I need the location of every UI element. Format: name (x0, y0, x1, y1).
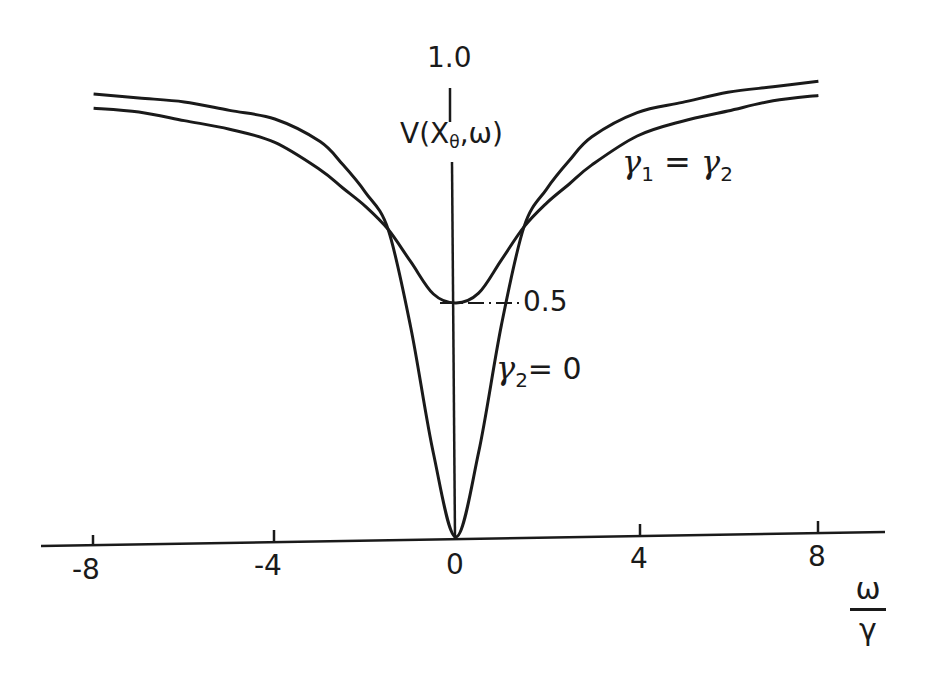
y-axis-arg-sub: θ (449, 132, 459, 152)
x-tick-label-8: 8 (808, 543, 826, 571)
x-label-omega: ω (850, 574, 886, 604)
sub-2: 2 (720, 162, 733, 186)
annotation-gamma2-zero: γ2= 0 (496, 352, 582, 390)
gamma-symbol: γ (701, 143, 720, 181)
y-axis (452, 162, 455, 538)
equals-zero: = 0 (528, 351, 582, 386)
x-tick-label-4: 4 (630, 545, 648, 573)
y-axis-arg-open: (X (419, 117, 449, 150)
x-label-gamma: γ (850, 615, 886, 645)
sub-2: 2 (515, 368, 528, 392)
x-axis-label: ω γ (850, 574, 886, 645)
x-tick-label-m8: -8 (72, 556, 100, 584)
equals-sign: = (664, 143, 691, 181)
fraction-bar (850, 608, 886, 611)
sub-1: 1 (641, 162, 654, 186)
x-axis (41, 532, 885, 546)
gamma-symbol: γ (622, 143, 641, 181)
chart-canvas (0, 0, 926, 697)
x-tick-label-0: 0 (446, 551, 464, 579)
x-tick-label-m4: -4 (254, 552, 282, 580)
annotation-gamma1-eq-gamma2: γ1 = γ2 (622, 146, 733, 184)
y-axis-name: V (400, 117, 419, 150)
y-tick-label-1: 1.0 (427, 44, 472, 72)
y-axis-arg-close: ,ω) (460, 117, 503, 150)
y-axis-label: V(Xθ,ω) (400, 120, 503, 151)
y-tick-label-half: 0.5 (523, 288, 568, 316)
gamma-symbol: γ (496, 349, 515, 387)
